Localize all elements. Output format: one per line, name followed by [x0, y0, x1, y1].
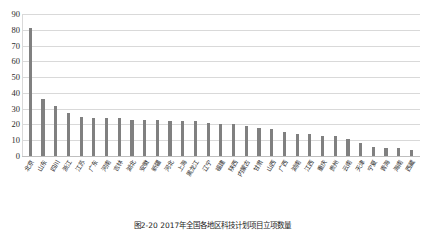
bar-slot: [354, 14, 367, 156]
x-label-slot: 青海: [380, 158, 393, 210]
x-tick-label: 云南: [342, 159, 353, 172]
bar: [308, 134, 311, 156]
bar: [130, 120, 133, 156]
bar: [67, 113, 70, 156]
bar: [384, 148, 387, 156]
bar-slot: [265, 14, 278, 156]
bar-slot: [113, 14, 126, 156]
bar-slot: [278, 14, 291, 156]
bar-slot: [189, 14, 202, 156]
bar: [270, 129, 273, 156]
x-tick-label: 宁夏: [367, 159, 378, 172]
bar-slot: [227, 14, 240, 156]
bar: [118, 118, 121, 156]
x-label-slot: 湖北: [126, 158, 139, 210]
bar-slot: [49, 14, 62, 156]
x-label-slot: 江西: [303, 158, 316, 210]
bar-slot: [100, 14, 113, 156]
x-tick-label: 吉林: [113, 159, 124, 172]
bar: [296, 134, 299, 156]
x-label-slot: 四川: [49, 158, 62, 210]
bar-slot: [37, 14, 50, 156]
x-label-slot: 西藏: [405, 158, 418, 210]
x-label-slot: 江苏: [75, 158, 88, 210]
x-tick-label: 湖南: [291, 159, 302, 172]
x-label-slot: 上海: [176, 158, 189, 210]
bar-slot: [24, 14, 37, 156]
bar-slot: [75, 14, 88, 156]
x-label-slot: 河北: [164, 158, 177, 210]
bar-slot: [164, 14, 177, 156]
x-label-slot: 云南: [342, 158, 355, 210]
x-label-slot: 贵州: [329, 158, 342, 210]
plot-area: [22, 14, 420, 156]
y-tick-label: 60: [0, 57, 20, 66]
bar-chart: 0102030405060708090 北京山东四川浙江江苏广东河南吉林湖北安徽…: [0, 0, 425, 231]
bar-slot: [380, 14, 393, 156]
bar-slot: [138, 14, 151, 156]
bar: [257, 128, 260, 156]
bar: [232, 124, 235, 156]
bar-slot: [367, 14, 380, 156]
axis-baseline: [22, 156, 420, 157]
x-label-slot: 广东: [88, 158, 101, 210]
y-tick-label: 40: [0, 89, 20, 98]
x-tick-label: 江苏: [75, 159, 86, 172]
y-tick-label: 90: [0, 10, 20, 19]
x-label-slot: 浙江: [62, 158, 75, 210]
x-label-slot: 陕西: [227, 158, 240, 210]
x-label-slot: 山西: [265, 158, 278, 210]
bar: [207, 123, 210, 156]
x-label-slot: 辽宁: [202, 158, 215, 210]
bar-slot: [253, 14, 266, 156]
x-tick-label: 重庆: [317, 159, 328, 172]
bar: [143, 120, 146, 156]
bar-slot: [151, 14, 164, 156]
bar-slot: [202, 14, 215, 156]
y-tick-label: 70: [0, 41, 20, 50]
x-label-slot: 黑龙江: [189, 158, 202, 210]
bar: [245, 126, 248, 156]
bar: [156, 120, 159, 156]
bar-slot: [291, 14, 304, 156]
x-label-slot: 安徽: [138, 158, 151, 210]
x-tick-label: 广东: [88, 159, 99, 172]
x-label-slot: 北京: [24, 158, 37, 210]
bar-slot: [176, 14, 189, 156]
x-tick-label: 青海: [380, 159, 391, 172]
x-tick-label: 河南: [101, 159, 112, 172]
y-axis: 0102030405060708090: [0, 14, 20, 156]
x-tick-label: 浙江: [62, 159, 73, 172]
bar-slot: [342, 14, 355, 156]
y-tick-label: 50: [0, 73, 20, 82]
bar: [359, 143, 362, 156]
x-label-slot: 内蒙古: [240, 158, 253, 210]
bar: [410, 150, 413, 156]
bar-slot: [126, 14, 139, 156]
bar-series: [22, 14, 420, 156]
x-tick-label: 湖北: [126, 159, 137, 172]
x-tick-label: 山西: [266, 159, 277, 172]
y-tick-label: 0: [0, 152, 20, 161]
bar-slot: [316, 14, 329, 156]
x-label-slot: 新疆: [151, 158, 164, 210]
bar: [41, 99, 44, 156]
x-label-slot: 山东: [37, 158, 50, 210]
x-tick-label: 江西: [304, 159, 315, 172]
x-label-slot: 湖南: [291, 158, 304, 210]
y-tick-label: 80: [0, 26, 20, 35]
x-tick-label: 河北: [164, 159, 175, 172]
x-label-slot: 河南: [100, 158, 113, 210]
y-tick-label: 10: [0, 136, 20, 145]
bar: [92, 118, 95, 156]
figure-caption: 图2-20 2017年全国各地区科技计划项目立项数量: [0, 219, 425, 230]
bar: [372, 147, 375, 156]
x-label-slot: 吉林: [113, 158, 126, 210]
bar-slot: [62, 14, 75, 156]
bar-slot: [88, 14, 101, 156]
x-tick-label: 四川: [50, 159, 61, 172]
y-tick-label: 30: [0, 104, 20, 113]
bar-slot: [392, 14, 405, 156]
x-axis-labels: 北京山东四川浙江江苏广东河南吉林湖北安徽新疆河北上海黑龙江辽宁福建陕西内蒙古甘肃…: [22, 158, 420, 210]
bar: [80, 117, 83, 156]
